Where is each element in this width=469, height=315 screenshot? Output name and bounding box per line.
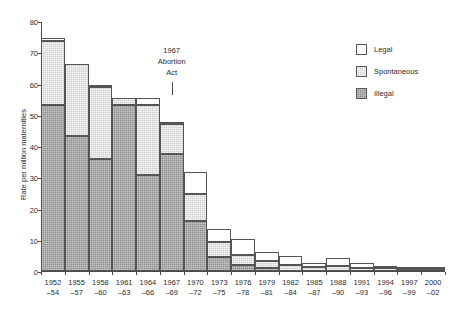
x-tick-label-year: 1988 — [330, 278, 347, 287]
bar-segment-spontaneous — [397, 269, 421, 271]
y-tick-label: 30 — [8, 174, 38, 183]
x-tick-label-year: 1961 — [116, 278, 133, 287]
x-tick-label: 1988–90 — [326, 278, 350, 298]
legend-swatch-legal — [356, 44, 367, 55]
x-tick-label-range: –96 — [374, 288, 398, 298]
x-tick-label-range: –99 — [397, 288, 421, 298]
x-tick-label: 1973–75 — [207, 278, 231, 298]
bar — [374, 267, 398, 271]
bar-segment-illegal — [160, 154, 184, 271]
legend-label: Legal — [374, 45, 392, 54]
x-tick-mark — [136, 272, 137, 275]
x-tick-mark — [160, 272, 161, 275]
bar-segment-legal — [421, 267, 445, 270]
legend-label: Illegal — [374, 89, 394, 98]
x-tick-label-year: 1976 — [235, 278, 252, 287]
x-tick-label-range: –66 — [136, 288, 160, 298]
x-tick-label-year: 1955 — [68, 278, 85, 287]
bar-segment-spontaneous — [65, 64, 89, 136]
bar — [302, 263, 326, 271]
annotation-line: Abortion — [132, 56, 212, 67]
x-tick-mark — [374, 272, 375, 275]
legend-label: Spontaneous — [374, 67, 418, 76]
x-tick-label-range: –02 — [421, 288, 445, 298]
bar-segment-legal — [136, 98, 160, 106]
bar-segment-spontaneous — [421, 269, 445, 271]
bar-segment-legal — [89, 85, 113, 87]
x-tick-label-range: –75 — [207, 288, 231, 298]
x-tick-mark — [207, 272, 208, 275]
annotation-line: Act — [132, 67, 212, 78]
bar-segment-illegal — [184, 221, 208, 271]
x-tick-mark — [350, 272, 351, 275]
legend: LegalSpontaneousIllegal — [356, 44, 418, 110]
x-tick-mark — [112, 272, 113, 275]
x-tick-mark — [255, 272, 256, 275]
x-axis-line — [41, 271, 445, 272]
bar — [65, 64, 89, 271]
y-tick-label: 80 — [8, 18, 38, 27]
bar-segment-spontaneous — [231, 255, 255, 265]
bar-segment-illegal — [65, 136, 89, 271]
bar-segment-legal — [279, 256, 303, 265]
x-tick-label: 1958–60 — [89, 278, 113, 298]
bar-segment-spontaneous — [89, 87, 113, 159]
x-tick-mark — [397, 272, 398, 275]
bar-segment-spontaneous — [207, 242, 231, 257]
y-tick-label: 40 — [8, 143, 38, 152]
x-tick-label: 1979–81 — [255, 278, 279, 298]
bar — [207, 229, 231, 272]
bar-segment-legal — [231, 239, 255, 255]
y-tick-label: 50 — [8, 111, 38, 120]
bar — [279, 256, 303, 271]
bar-segment-spontaneous — [184, 194, 208, 222]
x-tick-label-range: –84 — [279, 288, 303, 298]
bar — [350, 263, 374, 271]
bar — [89, 86, 113, 271]
x-tick-label-year: 1952 — [45, 278, 62, 287]
bar-segment-illegal — [231, 265, 255, 271]
x-tick-mark — [326, 272, 327, 275]
bar-segment-legal — [397, 267, 421, 269]
legend-swatch-spontaneous — [356, 66, 367, 77]
x-tick-label: 1970–72 — [184, 278, 208, 298]
bar-segment-legal — [207, 229, 231, 242]
x-tick-label: 1985–87 — [302, 278, 326, 298]
bar-segment-legal — [41, 38, 65, 41]
x-tick-label-range: –78 — [231, 288, 255, 298]
bar-segment-spontaneous — [350, 268, 374, 271]
bar-segment-legal — [255, 252, 279, 261]
x-tick-mark — [445, 272, 446, 275]
bar-segment-legal — [374, 266, 398, 268]
x-tick-label: 1991–93 — [350, 278, 374, 298]
y-tick-label: 10 — [8, 236, 38, 245]
bar-segment-illegal — [89, 159, 113, 271]
bar-segment-spontaneous — [374, 268, 398, 271]
x-tick-label: 1982–84 — [279, 278, 303, 298]
y-tick-mark — [38, 22, 41, 23]
x-tick-label-range: –54 — [41, 288, 65, 298]
legend-swatch-illegal — [356, 88, 367, 99]
bar — [326, 258, 350, 271]
x-tick-label-range: –60 — [89, 288, 113, 298]
x-tick-label-range: –93 — [350, 288, 374, 298]
x-tick-mark — [41, 272, 42, 275]
bar — [421, 267, 445, 271]
x-tick-label: 1967–69 — [160, 278, 184, 298]
x-tick-label-year: 1997 — [401, 278, 418, 287]
legend-item-spontaneous: Spontaneous — [356, 66, 418, 77]
x-tick-label: 1964–66 — [136, 278, 160, 298]
bar — [41, 38, 65, 271]
bar-segment-legal — [326, 258, 350, 266]
x-tick-label-year: 1991 — [353, 278, 370, 287]
bar-segment-legal — [160, 122, 184, 124]
x-tick-label-year: 1964 — [140, 278, 157, 287]
x-tick-label: 1955–57 — [65, 278, 89, 298]
x-tick-mark — [89, 272, 90, 275]
x-tick-label: 1994–96 — [374, 278, 398, 298]
x-tick-label-range: –63 — [112, 288, 136, 298]
x-tick-label-year: 1967 — [163, 278, 180, 287]
bar-segment-spontaneous — [326, 266, 350, 271]
bar-segment-legal — [302, 263, 326, 268]
annotation-line: 1967 — [132, 45, 212, 56]
